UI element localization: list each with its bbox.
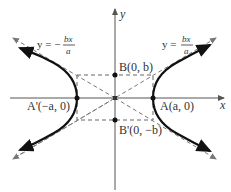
asymptote-negative-equation: y = − bx a [37, 34, 75, 56]
hyperbola-right-branch-upper [153, 45, 210, 98]
point-B-prime [113, 118, 118, 123]
eq-neg-lhs: y = − [37, 38, 60, 50]
y-axis-label: y [119, 7, 126, 21]
asymptote-negative [13, 38, 115, 98]
eq-pos-lhs: y = [162, 38, 176, 50]
hyperbola-diagram: x y B(0, b) B'(0, −b) A(a, 0) A'(−a, 0) … [0, 0, 231, 192]
point-A-prime [75, 96, 80, 101]
x-axis-label: x [219, 98, 226, 112]
point-B-label: B(0, b) [119, 60, 153, 74]
point-B [113, 73, 118, 78]
eq-pos-den: a [184, 46, 189, 56]
point-A [151, 96, 156, 101]
point-B-prime-label: B'(0, −b) [119, 123, 162, 137]
eq-neg-num: bx [64, 34, 73, 44]
eq-neg-den: a [66, 46, 71, 56]
eq-pos-num: bx [182, 34, 191, 44]
origin-marker [113, 96, 117, 100]
point-A-label: A(a, 0) [160, 99, 194, 113]
point-A-prime-label: A'(−a, 0) [27, 99, 70, 113]
diagram-canvas: x y B(0, b) B'(0, −b) A(a, 0) A'(−a, 0) … [0, 0, 231, 192]
asymptote-positive-equation: y = bx a [162, 34, 193, 56]
